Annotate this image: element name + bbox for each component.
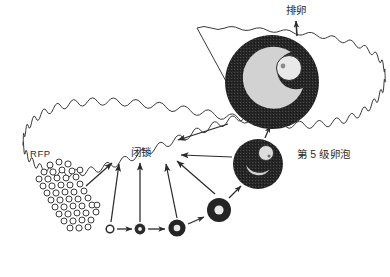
label-rfp: RFP	[30, 148, 51, 160]
arrow-medium-to-atresia	[181, 155, 232, 157]
label-atresia: 闭锁	[131, 146, 151, 158]
figure-canvas: 排卵 闭锁 RFP 第 5 级卵泡	[0, 0, 390, 277]
ovary-diagram	[0, 0, 390, 277]
arrow-stage4-to-atresia	[177, 161, 215, 194]
follicle-stage-1	[106, 225, 114, 233]
arrow-stage1-to-atresia	[111, 164, 119, 222]
follicle-stage-3	[168, 219, 185, 236]
arrow-stage3-to-stage4	[188, 217, 204, 224]
label-grade5-follicle: 第 5 级卵泡	[297, 148, 350, 160]
follicle-stage-4	[207, 198, 231, 222]
arrow-stage4-to-medium	[229, 186, 241, 198]
arrow-stage3-to-atresia	[166, 164, 177, 218]
follicle-stage-5-medium	[233, 139, 283, 189]
arrow-large-to-ovulation	[296, 21, 297, 36]
follicle-stage-2	[135, 224, 146, 235]
label-ovulation: 排卵	[286, 4, 306, 16]
follicle-preovulatory-large	[225, 35, 319, 129]
